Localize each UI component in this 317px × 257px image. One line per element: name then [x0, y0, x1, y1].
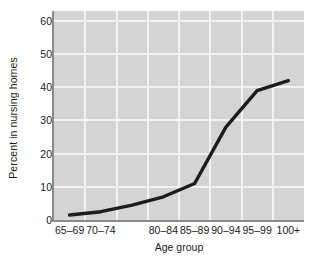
y-tick-label: 10 [40, 181, 52, 193]
x-axis-tick-labels: 65–6970–7480–8485–8990–9495–99100+ [54, 224, 304, 238]
x-tick-label: 95–99 [243, 224, 272, 237]
x-tick-label: 65–69 [55, 224, 84, 237]
nursing-home-line-chart: Percent in nursing homes 0102030405060 6… [0, 0, 317, 257]
x-axis-line [50, 220, 304, 222]
x-tick-label: 100+ [277, 224, 301, 237]
y-tick-label: 40 [40, 81, 52, 93]
y-axis-title: Percent in nursing homes [4, 4, 22, 232]
x-tick-label: 90–94 [211, 224, 240, 237]
x-tick-label: 80–84 [149, 224, 178, 237]
series-line-percent-in-nursing-homes [54, 11, 304, 220]
y-tick-label: 60 [40, 15, 52, 27]
y-tick-label: 50 [40, 48, 52, 60]
plot-area [54, 11, 304, 220]
y-axis-line [52, 11, 54, 222]
x-tick-label: 70–74 [86, 224, 115, 237]
y-axis-tick-labels: 0102030405060 [22, 0, 52, 257]
y-tick-label: 30 [40, 114, 52, 126]
x-tick-label: 85–89 [180, 224, 209, 237]
y-tick-label: 20 [40, 148, 52, 160]
x-axis-title: Age group [54, 240, 304, 254]
